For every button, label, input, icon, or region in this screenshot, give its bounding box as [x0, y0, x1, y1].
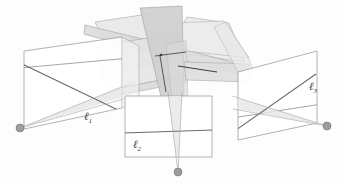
camera-center-left	[16, 124, 24, 132]
camera-center-bottom	[174, 168, 182, 176]
label-l3: ℓ3	[309, 80, 317, 95]
epipolar-geometry-figure: ℓ1 ℓ2 ℓ3	[0, 0, 345, 184]
image-plane-left	[20, 37, 139, 129]
diagram-canvas	[0, 0, 345, 184]
label-l2: ℓ2	[133, 138, 141, 153]
label-l1: ℓ1	[84, 110, 92, 125]
label-l2-subscript: 2	[138, 145, 142, 153]
image-plane-left-face	[24, 37, 122, 129]
label-l1-subscript: 1	[89, 117, 93, 125]
image-plane-bottom	[124, 92, 213, 172]
label-l3-subscript: 3	[314, 87, 318, 95]
camera-center-right	[323, 122, 331, 130]
trifocal-intersection-point	[160, 54, 163, 57]
